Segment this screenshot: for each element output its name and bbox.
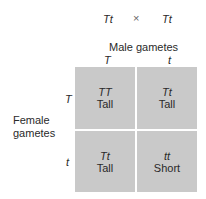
cell-phenotype: Tall [75,162,135,174]
cell-genotype: Tt [137,86,197,98]
punnett-cell-Tt-bottom: TtTall [75,131,135,192]
cell-genotype: TT [75,86,135,98]
cell-phenotype: Tall [75,98,135,110]
parent1-genotype: Tt [103,13,113,25]
female-allele-T: T [65,93,72,105]
punnett-cell-Tt-top: TtTall [137,67,197,129]
parent2-genotype: Tt [162,13,172,25]
punnett-cell-tt: ttShort [137,131,197,192]
female-allele-t: t [66,156,69,168]
female-gametes-label-line2: gametes [13,127,55,139]
cell-genotype: tt [137,150,197,162]
female-gametes-label-line1: Female [13,114,50,126]
male-allele-t: t [168,54,171,66]
punnett-cell-TT: TTTall [75,67,135,129]
cell-genotype: Tt [75,150,135,162]
male-allele-T: T [104,54,111,66]
cell-phenotype: Short [137,162,197,174]
male-gametes-label: Male gametes [109,41,178,53]
cell-phenotype: Tall [137,98,197,110]
cross-symbol: × [133,12,139,24]
